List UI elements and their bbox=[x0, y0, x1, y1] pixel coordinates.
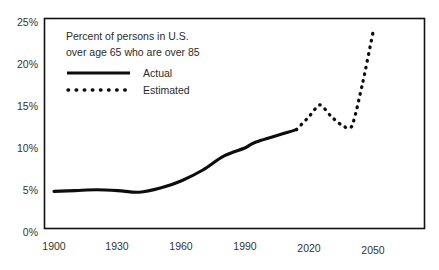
line-chart: 25% 20% 15% 10% 5% 0% 1900 1930 1960 199… bbox=[0, 0, 439, 270]
x-tick-label-1990: 1990 bbox=[233, 240, 257, 252]
y-tick-label-5: 5% bbox=[23, 184, 38, 196]
y-tick-label-25: 25% bbox=[17, 16, 38, 28]
chart-container: 25% 20% 15% 10% 5% 0% 1900 1930 1960 199… bbox=[0, 0, 439, 270]
x-tick-label-1930: 1930 bbox=[105, 240, 129, 252]
y-tick-label-0: 0% bbox=[23, 226, 38, 238]
legend-label-actual: Actual bbox=[143, 67, 172, 79]
x-tick-label-2050: 2050 bbox=[361, 244, 385, 256]
x-tick-label-1960: 1960 bbox=[169, 240, 193, 252]
x-tick-label-2020: 2020 bbox=[297, 242, 321, 254]
x-tick-label-1900: 1900 bbox=[42, 240, 66, 252]
series-line-actual bbox=[54, 130, 296, 193]
annotation-line-2: over age 65 who are over 85 bbox=[66, 46, 200, 58]
chart-legend: Actual Estimated bbox=[67, 67, 190, 96]
annotation-line-1: Percent of persons in U.S. bbox=[66, 30, 189, 42]
y-axis-tick-labels: 25% 20% 15% 10% 5% 0% bbox=[17, 16, 38, 238]
y-tick-label-10: 10% bbox=[17, 142, 38, 154]
chart-annotation: Percent of persons in U.S. over age 65 w… bbox=[66, 30, 200, 58]
x-axis-tick-labels: 1900 1930 1960 1990 2020 2050 bbox=[42, 240, 385, 256]
series-line-estimated bbox=[296, 32, 373, 129]
y-tick-label-15: 15% bbox=[17, 100, 38, 112]
legend-label-estimated: Estimated bbox=[143, 84, 190, 96]
y-tick-label-20: 20% bbox=[17, 58, 38, 70]
